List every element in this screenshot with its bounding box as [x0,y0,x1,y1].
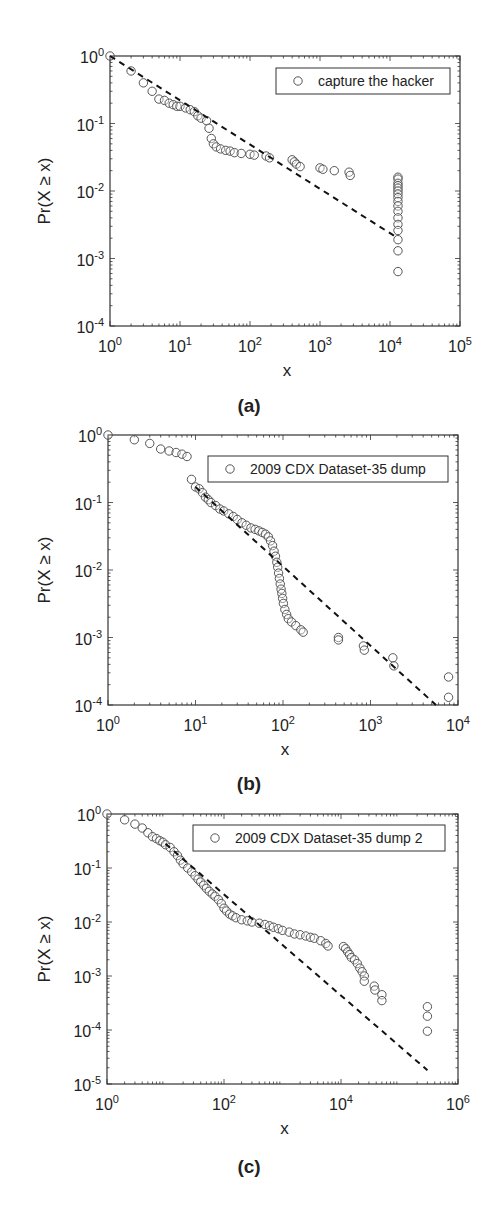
fit-line [166,844,428,1070]
x-tick-label: 100 [95,1093,119,1113]
y-tick-label: 100 [77,804,101,824]
data-point-marker [423,1027,431,1035]
y-tick-label: 10-1 [73,858,101,878]
data-point-marker [103,810,111,818]
axis-ticks [107,814,458,1084]
chart-c: 10010210410610010-110-210-310-410-5xPr(X… [0,0,498,1218]
figure-c: 10010210410610010-110-210-310-410-5xPr(X… [0,0,498,1218]
plot-area [107,814,458,1084]
x-tick-label: 102 [212,1093,236,1113]
data-point-marker [423,1012,431,1020]
data-point-marker [378,996,386,1004]
y-axis-label: Pr(X ≥ x) [35,916,54,983]
y-tick-label: 10-4 [73,1020,101,1040]
x-tick-label: 104 [329,1093,353,1113]
data-point-marker [360,977,368,985]
caption-c: (c) [0,1156,498,1178]
data-point-marker [324,942,332,950]
y-tick-label: 10-2 [73,912,101,932]
legend: 2009 CDX Dataset-35 dump 2 [193,825,445,851]
x-axis-label: x [280,1119,289,1138]
data-point-marker [120,816,128,824]
legend-label: 2009 CDX Dataset-35 dump 2 [235,830,423,846]
data-point-marker [423,1003,431,1011]
x-tick-label: 106 [446,1093,470,1113]
y-tick-label: 10-3 [73,966,101,986]
y-tick-label: 10-5 [73,1074,101,1094]
